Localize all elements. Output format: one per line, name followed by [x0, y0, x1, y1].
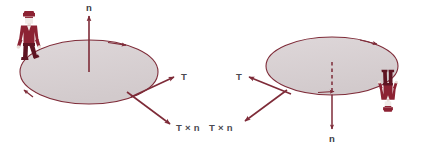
disk-surface-right [266, 37, 398, 95]
vector-orientation-diagram: n T T × n [0, 0, 422, 159]
cross-product-vector-label-right: T × n [209, 122, 233, 133]
right-panel: n T T × n [209, 37, 398, 144]
tangent-vector-label-right: T [236, 71, 242, 82]
tangent-vector-label-left: T [181, 71, 187, 82]
cross-product-vector-label-left: T × n [176, 122, 200, 133]
rim-direction-arrow-left-side [24, 90, 33, 97]
left-panel: n T T × n [17, 2, 200, 133]
cross-product-vector-arrow-left [127, 92, 170, 124]
figure-canvas: n T T × n [0, 0, 422, 159]
cross-product-vector-arrow-right [245, 90, 287, 121]
normal-vector-label-right: n [329, 133, 335, 144]
normal-vector-label-left: n [86, 2, 92, 13]
